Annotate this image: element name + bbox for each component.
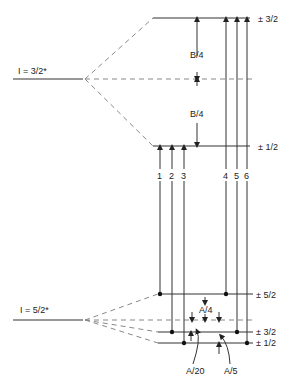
transition-6-label: 6 [244,171,249,181]
transition-5-label: 5 [234,171,239,181]
energy-level-diagram: I = 3/2* ± 3/2 ± 1/2 B/4 B/4 I = 5/2* ± … [0,0,293,392]
transition-1-label: 1 [157,171,162,181]
level-lower-3-2-label: ± 3/2 [256,327,276,337]
a20-label: A/20 [186,366,205,376]
b4-label-bottom: B/4 [190,109,204,119]
level-lower-5-2-label: ± 5/2 [256,290,276,300]
transition-2-label: 2 [169,171,174,181]
a5-label: A/5 [224,366,238,376]
lower-state-label: I = 5/2* [20,305,49,315]
transition-3-label: 3 [181,171,186,181]
transition-1-dot [158,292,162,296]
b4-label-top: B/4 [190,50,204,60]
transitions: 1 2 3 4 5 6 [155,19,252,345]
upper-state-label: I = 3/2* [18,66,47,76]
level-lower-1-2-label: ± 1/2 [256,338,276,348]
a4-label: A/4 [199,305,213,315]
level-upper-3-2-label: ± 3/2 [258,14,278,24]
level-upper-1-2-label: ± 1/2 [258,142,278,152]
upper-state: I = 3/2* ± 3/2 ± 1/2 B/4 B/4 [13,14,278,152]
transition-5-dot [235,330,239,334]
lower-split-line-3-2 [85,320,158,332]
a5-pointer [221,336,230,364]
lower-split-line-1-2 [85,320,158,343]
transition-2-dot [170,330,174,334]
transition-4-label: 4 [223,171,228,181]
upper-split-line-bottom [85,79,153,146]
upper-split-line-top [85,18,153,79]
lower-split-line-5-2 [85,294,158,320]
transition-3-dot [182,341,186,345]
transition-6-dot [245,341,249,345]
transition-4-dot [224,292,228,296]
a20-pointer [193,331,198,364]
